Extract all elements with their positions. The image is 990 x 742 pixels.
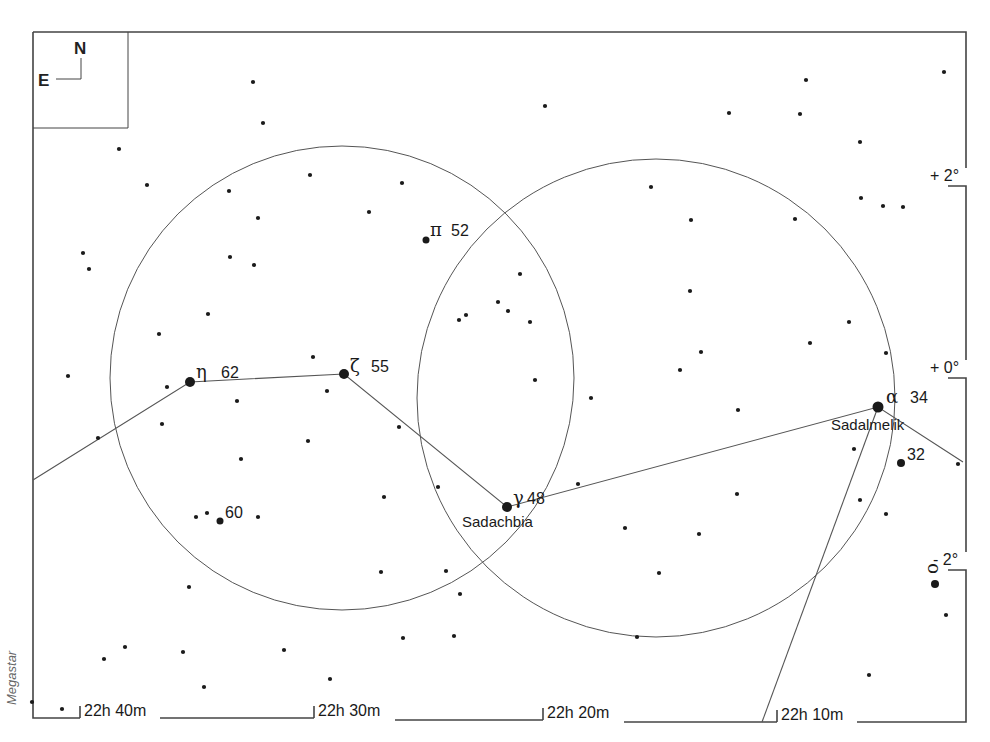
ra-label-22h20m: 22h 20m [547,704,609,721]
star [328,677,332,681]
star [635,635,639,639]
star [942,70,946,74]
star [228,255,232,259]
star [793,217,797,221]
star [102,657,106,661]
star [145,183,149,187]
star [96,436,100,440]
star [496,300,500,304]
star-labels: η 62 ζ 55 π 52 γ 48 Sadachbia α 34 Sadal… [196,219,942,574]
star [205,511,209,515]
star [81,251,85,255]
star [206,312,210,316]
star [847,320,851,324]
eta-greek-label: η [196,361,207,382]
dec-axis-labels: + 2° + 0° - 2° [930,167,959,568]
star [697,532,701,536]
star [256,216,260,220]
star [282,648,286,652]
field-of-view-circles [110,146,895,637]
star [382,495,386,499]
star [367,210,371,214]
eta-number-label: 62 [221,364,239,381]
dec-label-0: + 0° [930,359,959,376]
star [944,613,948,617]
star [194,515,198,519]
star [881,204,885,208]
sadalmelik-name-label: Sadalmelik [831,416,905,433]
star [852,447,856,451]
star [808,341,812,345]
star [623,526,627,530]
zeta-greek-label: ζ [350,355,360,376]
sadachbia-name-label: Sadachbia [462,513,534,530]
star [87,267,91,271]
star [458,592,462,596]
star [543,104,547,108]
star [444,569,448,573]
star [576,482,580,486]
compass-east-label: E [38,71,49,90]
star [436,485,440,489]
ra-label-22h40m: 22h 40m [84,702,146,719]
pi-number-label: 52 [451,222,469,239]
star [123,645,127,649]
star [400,181,404,185]
star-32-label: 32 [907,446,925,463]
star [804,78,808,82]
star [181,650,185,654]
star [735,492,739,496]
star [311,355,315,359]
zeta-number-label: 55 [371,358,389,375]
star-60-label: 60 [225,504,243,521]
star [657,571,661,575]
star [736,408,740,412]
star [798,112,802,116]
star [165,385,169,389]
omicron-greek-label: ο [921,563,942,574]
gamma-greek-label: γ [513,487,524,508]
compass-north-label: N [74,39,86,58]
star [528,320,532,324]
alpha-number-label: 34 [910,389,928,406]
star [30,700,34,704]
credit-label: Megastar [4,651,19,705]
constellation-lines [33,374,963,722]
star [858,140,862,144]
star [589,396,593,400]
star-omicron [931,580,939,588]
alpha-greek-label: α [886,386,898,407]
star [401,636,405,640]
star [60,707,64,711]
star [379,570,383,574]
fov-circle [417,159,895,637]
star [397,425,401,429]
star-gamma [502,502,512,512]
star [518,272,522,276]
star [157,332,161,336]
star [306,439,310,443]
star-32 [897,459,905,467]
star [235,399,239,403]
star [452,634,456,638]
star [251,80,255,84]
star-60 [217,518,224,525]
star [66,374,70,378]
star [261,121,265,125]
star [239,457,243,461]
constellation-line [762,407,878,722]
star [457,318,461,322]
ra-label-22h10m: 22h 10m [781,706,843,723]
ra-label-22h30m: 22h 30m [318,702,380,719]
star [187,585,191,589]
compass-inset: N E [33,32,128,128]
star-eta [185,377,195,387]
dec-label-plus2: + 2° [930,167,959,184]
star [308,173,312,177]
background-stars [30,70,960,711]
star [117,147,121,151]
star [649,185,653,189]
chart-frame [33,32,966,722]
star-alpha [873,402,884,413]
star-pi [423,237,430,244]
